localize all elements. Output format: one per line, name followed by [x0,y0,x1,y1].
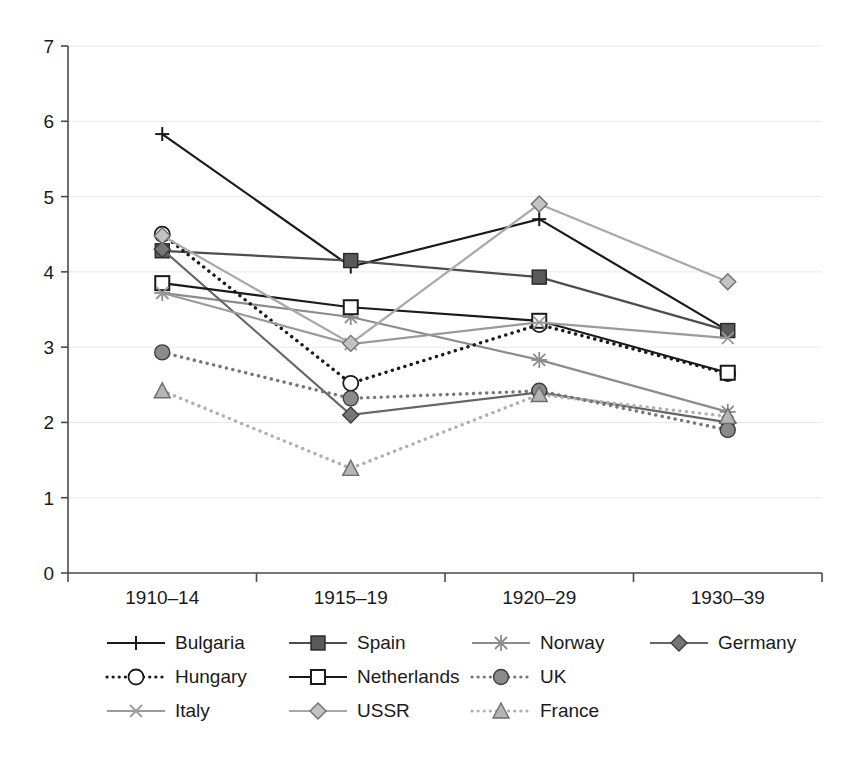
data-point-marker [344,300,358,314]
axes: 012345671910–141915–191920–291930–39 [43,36,822,608]
series-line [162,234,728,383]
series-spain [155,244,735,338]
legend-label: Hungary [175,667,247,687]
legend-item-italy[interactable]: Italy [105,701,210,721]
data-point-marker [154,383,170,398]
legend-label: Bulgaria [175,633,245,653]
legend-marker-netherlands-icon [287,667,349,687]
legend-marker-hungary-icon [105,667,167,687]
series-line [162,251,728,331]
data-point-marker [532,314,546,328]
data-point-marker [343,460,359,475]
data-point-marker [494,670,509,685]
legend-item-norway[interactable]: Norway [470,633,604,653]
data-point-marker [721,324,735,338]
data-point-marker [343,376,358,391]
x-tick-label: 1910–14 [125,587,199,608]
legend-item-france[interactable]: France [470,701,599,721]
legend-item-germany[interactable]: Germany [648,633,796,653]
legend-label: USSR [357,701,410,721]
data-point-marker [343,391,358,406]
series-line [162,352,728,430]
legend-label: Germany [718,633,796,653]
series-ussr [154,196,736,351]
chart-root: 012345671910–141915–191920–291930–39 Bul… [0,0,858,768]
legend-label: Netherlands [357,667,459,687]
y-tick-label: 3 [43,337,54,358]
legend-label: Spain [357,633,406,653]
legend-marker-spain-icon [287,633,349,653]
series-line [162,134,728,330]
series-france [154,383,736,476]
data-point-marker [671,635,687,651]
data-point-marker [311,636,325,650]
data-point-marker [310,703,326,719]
gridlines [68,46,822,498]
series-italy [156,287,734,350]
data-point-marker [720,274,736,290]
y-tick-label: 5 [43,187,54,208]
legend-marker-germany-icon [648,633,710,653]
y-tick-label: 7 [43,36,54,57]
legend-label: Italy [175,701,210,721]
legend-marker-uk-icon [470,667,532,687]
x-tick-label: 1930–39 [691,587,765,608]
legend-item-netherlands[interactable]: Netherlands [287,667,459,687]
data-point-marker [311,670,325,684]
series-bulgaria [155,127,735,337]
legend-marker-italy-icon [105,701,167,721]
legend-marker-ussr-icon [287,701,349,721]
series-line [162,391,728,469]
y-tick-label: 6 [43,111,54,132]
data-point-marker [344,254,358,268]
legend-marker-bulgaria-icon [105,633,167,653]
y-tick-label: 1 [43,488,54,509]
data-point-marker [721,366,735,380]
y-tick-label: 2 [43,412,54,433]
y-tick-label: 0 [43,563,54,584]
series-line [162,293,728,344]
legend-label: Norway [540,633,604,653]
legend-marker-norway-icon [470,633,532,653]
x-tick-label: 1920–29 [502,587,576,608]
series-netherlands [155,276,735,380]
data-point-marker [531,196,547,212]
data-point-marker [532,270,546,284]
legend-item-spain[interactable]: Spain [287,633,406,653]
series-line [162,283,728,373]
y-tick-label: 4 [43,262,54,283]
data-point-marker [155,345,170,360]
data-point-marker [720,422,735,437]
series-norway [154,285,736,420]
legend-label: UK [540,667,566,687]
series-line [162,249,728,422]
data-point-marker [129,670,144,685]
series-line [162,293,728,412]
legend-item-bulgaria[interactable]: Bulgaria [105,633,245,653]
legend-marker-france-icon [470,701,532,721]
legend-item-hungary[interactable]: Hungary [105,667,247,687]
legend-item-uk[interactable]: UK [470,667,566,687]
x-tick-label: 1915–19 [314,587,388,608]
legend-item-ussr[interactable]: USSR [287,701,410,721]
legend-label: France [540,701,599,721]
